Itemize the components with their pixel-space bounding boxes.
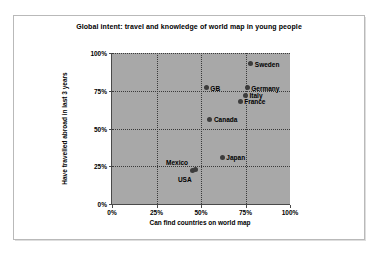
x-axis-title: Can find countries on world map: [111, 219, 289, 226]
x-axis-tick: [290, 205, 291, 208]
x-axis-tick: [112, 205, 113, 208]
data-label-usa: USA: [178, 176, 192, 183]
x-axis-tick: [246, 205, 247, 208]
data-point-usa[interactable]: [193, 167, 198, 172]
y-axis-tick-label: 75%: [94, 87, 107, 94]
data-label-japan: Japan: [226, 154, 245, 161]
y-axis-tick-label: 100%: [90, 50, 107, 57]
data-point-sweden[interactable]: [248, 61, 253, 66]
chart-title: Global intent: travel and knowledge of w…: [14, 23, 364, 30]
y-axis-title: Have travelled abroad in last 3 years: [58, 53, 70, 204]
x-axis-tick: [157, 205, 158, 208]
data-label-canada: Canada: [214, 116, 237, 123]
data-point-france[interactable]: [238, 99, 243, 104]
y-axis-tick: [109, 53, 112, 54]
data-point-japan[interactable]: [220, 155, 225, 160]
x-axis-tick-label: 25%: [150, 209, 163, 216]
chart-page: Global intent: travel and knowledge of w…: [0, 0, 379, 256]
plot-area: 0%25%50%75%100%0%25%50%75%100%SwedenGerm…: [111, 53, 290, 205]
x-axis-tick-label: 100%: [282, 209, 299, 216]
y-axis-tick-label: 25%: [94, 163, 107, 170]
x-axis-tick-label: 50%: [194, 209, 207, 216]
data-label-sweden: Sweden: [255, 60, 280, 67]
y-axis-tick-label: 50%: [94, 125, 107, 132]
gridline-vertical: [157, 53, 158, 204]
x-axis-tick-label: 0%: [107, 209, 116, 216]
gridline-vertical: [201, 53, 202, 204]
y-axis-tick: [109, 91, 112, 92]
gridline-vertical: [246, 53, 247, 204]
data-label-germany: Germany: [251, 84, 279, 91]
y-axis-tick: [109, 166, 112, 167]
data-label-mexico: Mexico: [166, 158, 188, 165]
data-point-gb[interactable]: [204, 85, 209, 90]
data-label-france: France: [244, 98, 265, 105]
data-point-germany[interactable]: [245, 85, 250, 90]
data-label-gb: GB: [210, 84, 220, 91]
y-axis-tick-label: 0%: [98, 201, 107, 208]
x-axis-tick: [201, 205, 202, 208]
data-point-canada[interactable]: [207, 117, 212, 122]
x-axis-tick-label: 75%: [239, 209, 252, 216]
figure-frame: Global intent: travel and knowledge of w…: [13, 15, 365, 240]
y-axis-tick: [109, 129, 112, 130]
y-axis-title-text: Have travelled abroad in last 3 years: [61, 72, 68, 184]
